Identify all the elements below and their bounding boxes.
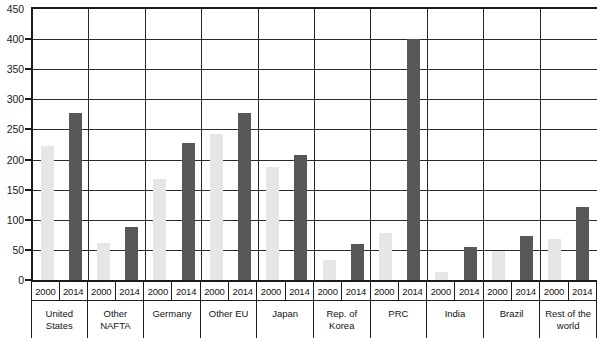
- x-axis-group: 20002014PRC: [371, 282, 428, 338]
- x-axis-year-label: 2000: [88, 282, 116, 300]
- x-axis-group-label-text: Other EU: [209, 308, 249, 320]
- y-tick-label: 50: [13, 244, 24, 256]
- x-axis-group: 20002014Other NAFTA: [88, 282, 145, 338]
- bar-group: [428, 9, 484, 280]
- x-axis-year-label: 2014: [229, 282, 256, 300]
- x-axis-group-label-text: India: [445, 308, 466, 320]
- bar[interactable]: [210, 134, 223, 280]
- x-axis-year-row: 20002014: [257, 282, 314, 301]
- bar[interactable]: [548, 239, 561, 280]
- bar-slot: [33, 9, 61, 280]
- x-axis-group: 20002014Japan: [257, 282, 314, 338]
- bar[interactable]: [464, 247, 477, 280]
- bar[interactable]: [576, 207, 589, 280]
- bar-slot: [202, 9, 230, 280]
- y-tick-label: 300: [7, 93, 24, 105]
- bar[interactable]: [69, 113, 82, 280]
- bar[interactable]: [238, 113, 251, 280]
- x-axis-year-row: 20002014: [540, 282, 597, 301]
- bar-slot: [541, 9, 569, 280]
- bar-slot: [484, 9, 512, 280]
- bar[interactable]: [520, 236, 533, 280]
- bar-group: [33, 9, 89, 280]
- y-tick-label: 150: [7, 184, 24, 196]
- plot-area: [31, 7, 597, 282]
- x-axis-year-label: 2014: [569, 282, 596, 300]
- bar-slot: [230, 9, 258, 280]
- x-axis-year-row: 20002014: [427, 282, 484, 301]
- y-tick-label: 350: [7, 63, 24, 75]
- bar[interactable]: [351, 244, 364, 280]
- x-axis-year-label: 2000: [201, 282, 229, 300]
- x-axis-year-label: 2000: [144, 282, 172, 300]
- y-tick-label: 400: [7, 33, 24, 45]
- bar[interactable]: [153, 179, 166, 280]
- x-axis-group-label-text: Brazil: [500, 308, 524, 320]
- x-axis-year-row: 20002014: [144, 282, 201, 301]
- x-axis-group: 20002014Rep. of Korea: [314, 282, 371, 338]
- x-axis-group-label: Japan: [257, 301, 314, 338]
- x-axis-year-label: 2000: [540, 282, 568, 300]
- x-axis-group-label: Other NAFTA: [88, 301, 145, 338]
- x-axis-year-label: 2014: [342, 282, 369, 300]
- x-axis-year-label: 2014: [172, 282, 199, 300]
- bar-slot: [315, 9, 343, 280]
- y-tick-label: 200: [7, 154, 24, 166]
- bar[interactable]: [182, 143, 195, 280]
- bar-group: [315, 9, 371, 280]
- x-axis-group-label: India: [427, 301, 484, 338]
- x-axis-year-row: 20002014: [201, 282, 258, 301]
- x-axis-group-label-text: Germany: [152, 308, 191, 320]
- y-tick-label: 0: [18, 274, 24, 286]
- bar-slot: [61, 9, 89, 280]
- y-tick-label: 250: [7, 123, 24, 135]
- bar[interactable]: [97, 243, 110, 280]
- bar-slot: [174, 9, 202, 280]
- bar[interactable]: [266, 167, 279, 280]
- bar-slot: [400, 9, 428, 280]
- y-axis: 450400350300250200150100500: [0, 0, 28, 282]
- x-axis-year-row: 20002014: [371, 282, 428, 301]
- x-axis-year-label: 2014: [512, 282, 539, 300]
- bar-slot: [343, 9, 371, 280]
- bar[interactable]: [407, 39, 420, 280]
- bar-chart: 450400350300250200150100500 20002014Unit…: [0, 0, 597, 338]
- x-axis-group-label: Rep. of Korea: [314, 301, 371, 338]
- x-axis-group-label: Brazil: [484, 301, 541, 338]
- bar-slot: [287, 9, 315, 280]
- y-tick-label: 450: [7, 3, 24, 15]
- y-tick-label: 100: [7, 214, 24, 226]
- x-axis-year-label: 2000: [427, 282, 455, 300]
- x-axis-group: 20002014Germany: [144, 282, 201, 338]
- bar-slot: [89, 9, 117, 280]
- x-axis-group: 20002014Other EU: [201, 282, 258, 338]
- x-axis-year-label: 2014: [60, 282, 87, 300]
- x-axis-group-label: Germany: [144, 301, 201, 338]
- bar-slot: [569, 9, 597, 280]
- bar[interactable]: [435, 272, 448, 280]
- x-axis-group-label: Other EU: [201, 301, 258, 338]
- bar-group: [146, 9, 202, 280]
- x-axis-year-label: 2014: [286, 282, 313, 300]
- x-axis-year-label: 2000: [32, 282, 60, 300]
- bar[interactable]: [125, 227, 138, 280]
- bar-slot: [146, 9, 174, 280]
- x-axis-group: 20002014India: [427, 282, 484, 338]
- x-axis-group: 20002014Rest of the world: [540, 282, 597, 338]
- x-axis-year-label: 2000: [371, 282, 399, 300]
- bar[interactable]: [323, 260, 336, 280]
- bar[interactable]: [294, 155, 307, 280]
- x-axis-group-label-text: Japan: [272, 308, 298, 320]
- x-axis-group-label-text: PRC: [388, 308, 408, 320]
- x-axis-group: 20002014Brazil: [484, 282, 541, 338]
- bar[interactable]: [492, 251, 505, 280]
- bar[interactable]: [379, 233, 392, 280]
- bar-group: [484, 9, 540, 280]
- x-axis-year-row: 20002014: [31, 282, 88, 301]
- x-axis-year-row: 20002014: [484, 282, 541, 301]
- x-axis-group-label: Rest of the world: [540, 301, 597, 338]
- bar-slot: [371, 9, 399, 280]
- bar-slot: [118, 9, 146, 280]
- bar[interactable]: [41, 146, 54, 280]
- x-axis-year-row: 20002014: [314, 282, 371, 301]
